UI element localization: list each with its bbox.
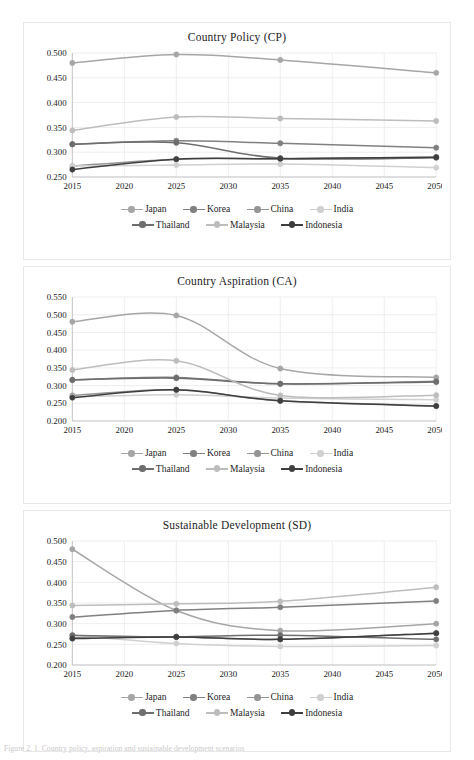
y-tick-label: 0.550 xyxy=(47,292,67,302)
x-tick-label: 2035 xyxy=(271,425,289,435)
x-tick-label: 2030 xyxy=(219,181,237,191)
data-point-indonesia xyxy=(70,395,75,400)
legend-row-2: Thailand Malaysia Indonesia xyxy=(24,216,450,231)
series-line-india xyxy=(72,164,436,168)
legend-marker-korea xyxy=(183,449,205,458)
data-point-japan xyxy=(434,621,439,626)
data-point-indonesia xyxy=(174,156,179,161)
y-tick-label: 0.350 xyxy=(47,122,67,132)
legend-ca: Japan Korea China India Thailand Malaysi… xyxy=(24,445,450,475)
data-point-korea xyxy=(434,598,439,603)
y-tick-label: 0.500 xyxy=(47,310,67,320)
legend-item-india[interactable]: India xyxy=(310,689,354,704)
figure-caption: Figure 2. 1. Country policy, aspiration … xyxy=(4,744,245,753)
legend-item-malaysia[interactable]: Malaysia xyxy=(206,461,265,476)
data-point-japan xyxy=(70,547,75,552)
x-tick-label: 2025 xyxy=(167,669,185,679)
data-point-malaysia xyxy=(278,599,283,604)
x-tick-label: 2025 xyxy=(167,181,185,191)
chart-panel-country-policy: Country Policy (CP) 0.2500.3000.3500.400… xyxy=(23,22,451,260)
legend-item-thailand[interactable]: Thailand xyxy=(132,217,190,232)
legend-item-japan[interactable]: Japan xyxy=(121,201,167,216)
legend-item-china[interactable]: China xyxy=(247,201,294,216)
data-point-japan xyxy=(174,313,179,318)
data-point-malaysia xyxy=(70,367,75,372)
plot-area-sd: 0.2000.2500.3000.3500.4000.4500.50020152… xyxy=(30,535,442,685)
legend-marker-china xyxy=(247,205,269,214)
chart-title-sd: Sustainable Development (SD) xyxy=(24,517,450,533)
x-tick-label: 2015 xyxy=(64,181,82,191)
data-point-thailand xyxy=(278,381,283,386)
legend-item-japan[interactable]: Japan xyxy=(121,689,167,704)
x-tick-label: 2030 xyxy=(219,425,237,435)
legend-item-indonesia[interactable]: Indonesia xyxy=(281,461,342,476)
legend-item-japan[interactable]: Japan xyxy=(121,445,167,460)
x-tick-label: 2050 xyxy=(427,425,442,435)
data-point-japan xyxy=(278,366,283,371)
data-point-korea xyxy=(278,604,283,609)
legend-marker-india xyxy=(310,693,332,702)
y-tick-label: 0.400 xyxy=(47,577,67,587)
data-point-indonesia xyxy=(434,403,439,408)
x-tick-label: 2035 xyxy=(271,669,289,679)
y-tick-label: 0.400 xyxy=(47,98,67,108)
y-tick-label: 0.400 xyxy=(47,345,67,355)
y-tick-label: 0.500 xyxy=(47,48,67,58)
x-tick-label: 2045 xyxy=(375,669,393,679)
x-tick-label: 2025 xyxy=(167,425,185,435)
legend-item-thailand[interactable]: Thailand xyxy=(132,461,190,476)
legend-item-china[interactable]: China xyxy=(247,689,294,704)
data-point-thailand xyxy=(70,142,75,147)
y-tick-label: 0.350 xyxy=(47,363,67,373)
y-tick-label: 0.450 xyxy=(47,327,67,337)
legend-item-korea[interactable]: Korea xyxy=(183,689,230,704)
legend-row-2: Thailand Malaysia Indonesia xyxy=(24,460,450,475)
legend-item-india[interactable]: India xyxy=(310,445,354,460)
legend-item-malaysia[interactable]: Malaysia xyxy=(206,705,265,720)
legend-item-indonesia[interactable]: Indonesia xyxy=(281,217,342,232)
x-tick-label: 2050 xyxy=(427,181,442,191)
data-point-malaysia xyxy=(174,114,179,119)
data-point-malaysia xyxy=(434,585,439,590)
legend-item-thailand[interactable]: Thailand xyxy=(132,705,190,720)
x-tick-label: 2045 xyxy=(375,425,393,435)
legend-item-malaysia[interactable]: Malaysia xyxy=(206,217,265,232)
data-point-malaysia xyxy=(278,393,283,398)
data-point-indonesia xyxy=(434,154,439,159)
legend-item-china[interactable]: China xyxy=(247,445,294,460)
x-tick-label: 2020 xyxy=(115,181,133,191)
legend-marker-korea xyxy=(183,693,205,702)
legend-item-korea[interactable]: Korea xyxy=(183,201,230,216)
data-point-japan xyxy=(278,57,283,62)
y-tick-label: 0.300 xyxy=(47,147,67,157)
data-point-thailand xyxy=(434,637,439,642)
data-point-malaysia xyxy=(70,603,75,608)
legend-marker-thailand xyxy=(132,708,154,717)
legend-marker-japan xyxy=(121,205,143,214)
legend-item-korea[interactable]: Korea xyxy=(183,445,230,460)
data-point-indonesia xyxy=(70,636,75,641)
x-tick-label: 2050 xyxy=(427,669,442,679)
series-line-malaysia xyxy=(72,116,436,130)
data-point-malaysia xyxy=(70,128,75,133)
legend-marker-malaysia xyxy=(206,220,228,229)
data-point-india xyxy=(174,162,179,167)
plot-area-ca: 0.2000.2500.3000.3500.4000.4500.5000.550… xyxy=(30,291,442,441)
y-tick-label: 0.250 xyxy=(47,398,67,408)
x-tick-label: 2040 xyxy=(323,181,341,191)
data-point-india xyxy=(434,643,439,648)
data-point-thailand xyxy=(434,379,439,384)
legend-item-india[interactable]: India xyxy=(310,201,354,216)
legend-marker-malaysia xyxy=(206,464,228,473)
legend-item-indonesia[interactable]: Indonesia xyxy=(281,705,342,720)
plot-area-cp: 0.2500.3000.3500.4000.4500.5002015202020… xyxy=(30,47,442,197)
legend-row-1: Japan Korea China India xyxy=(24,445,450,460)
data-point-japan xyxy=(174,52,179,57)
legend-marker-india xyxy=(310,205,332,214)
legend-row-2: Thailand Malaysia Indonesia xyxy=(24,704,450,719)
x-tick-label: 2035 xyxy=(271,181,289,191)
data-point-india xyxy=(174,392,179,397)
chart-panel-sustainable-development: Sustainable Development (SD) 0.2000.2500… xyxy=(23,510,451,752)
data-point-indonesia xyxy=(70,167,75,172)
x-tick-label: 2015 xyxy=(64,669,82,679)
